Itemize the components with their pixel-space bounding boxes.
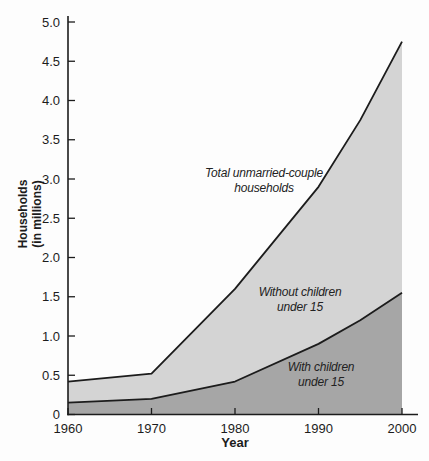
annotation-without-line1: Without children <box>259 285 342 300</box>
annotation-with-line1: With children <box>288 360 355 375</box>
y-axis-ticks: 00.51.01.52.02.53.03.54.04.55.0 <box>42 15 75 423</box>
y-tick-label: 0.5 <box>42 368 60 383</box>
y-tick-label: 1.5 <box>42 289 60 304</box>
y-axis-title-line1: Households <box>16 180 30 249</box>
y-tick-label: 2.5 <box>42 211 60 226</box>
annotation-total-unmarried-couple: Total unmarried-couple households <box>205 166 323 196</box>
y-tick-label: 4.5 <box>42 54 60 69</box>
annotation-total-line2: households <box>205 181 323 196</box>
area-chart-figure: 00.51.01.52.02.53.03.54.04.55.0 19601970… <box>0 0 429 461</box>
x-tick-label: 2000 <box>388 421 417 436</box>
y-tick-label: 3.0 <box>42 172 60 187</box>
chart-canvas: 00.51.01.52.02.53.03.54.04.55.0 19601970… <box>0 0 429 461</box>
y-tick-label: 0 <box>53 407 60 422</box>
y-tick-label: 3.5 <box>42 132 60 147</box>
y-axis-title: Households (in millions) <box>16 180 44 249</box>
x-tick-label: 1970 <box>137 421 166 436</box>
x-axis-title: Year <box>221 435 248 450</box>
x-tick-label: 1990 <box>304 421 333 436</box>
annotation-without-children: Without children under 15 <box>259 285 342 315</box>
y-tick-label: 4.0 <box>42 93 60 108</box>
annotation-without-line2: under 15 <box>259 300 342 315</box>
annotation-with-children: With children under 15 <box>288 360 355 390</box>
x-tick-label: 1980 <box>221 421 250 436</box>
annotation-total-line1: Total unmarried-couple <box>205 166 323 181</box>
y-tick-label: 1.0 <box>42 329 60 344</box>
x-tick-label: 1960 <box>54 421 83 436</box>
annotation-with-line2: under 15 <box>288 375 355 390</box>
y-tick-label: 2.0 <box>42 250 60 265</box>
y-tick-label: 5.0 <box>42 15 60 30</box>
y-axis-title-line2: (in millions) <box>30 180 44 249</box>
